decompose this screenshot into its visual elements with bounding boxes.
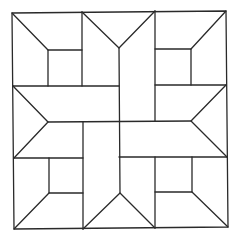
- quilt-block-diagram: [0, 0, 241, 235]
- arrow-piece-left: [13, 86, 191, 158]
- arrow-piece-bottom: [83, 193, 155, 229]
- corner-block-top-left: [12, 12, 119, 86]
- corner-block-top-right: [155, 11, 226, 121]
- arrow-piece-top: [82, 11, 155, 193]
- corner-block-bottom-left: [14, 122, 83, 229]
- corner-block-bottom-right: [155, 157, 228, 228]
